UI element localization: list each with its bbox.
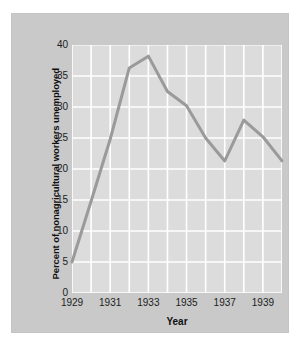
y-axis-tick-label: 20 [34, 164, 68, 174]
y-axis-tick-label: 10 [34, 226, 68, 236]
x-axis-tick-label: 1939 [243, 297, 283, 309]
y-axis-tick-label: 30 [34, 102, 68, 112]
y-axis-tick-label: 15 [34, 195, 68, 205]
x-axis-title: Year [72, 316, 282, 327]
y-axis-tick-label: 40 [34, 40, 68, 50]
y-axis-tick-label: 35 [34, 71, 68, 81]
data-line [72, 56, 282, 262]
y-axis-tick-labels: 0510152025303540 [30, 45, 68, 293]
chart-figure: Percent of nonagricultural workers unemp… [0, 0, 301, 347]
data-line-series [72, 45, 282, 293]
x-axis-tick-label: 1935 [167, 297, 207, 309]
chart-frame: Percent of nonagricultural workers unemp… [12, 14, 288, 332]
x-axis-tick-label: 1933 [128, 297, 168, 309]
x-axis-tick-labels: 192919311933193519371939 [72, 297, 287, 311]
y-axis-tick-label: 25 [34, 133, 68, 143]
y-axis-tick-label: 5 [34, 257, 68, 267]
x-axis-tick-label: 1937 [205, 297, 245, 309]
x-axis-tick-label: 1931 [90, 297, 130, 309]
plot-area [72, 45, 282, 293]
x-axis-tick-label: 1929 [52, 297, 92, 309]
